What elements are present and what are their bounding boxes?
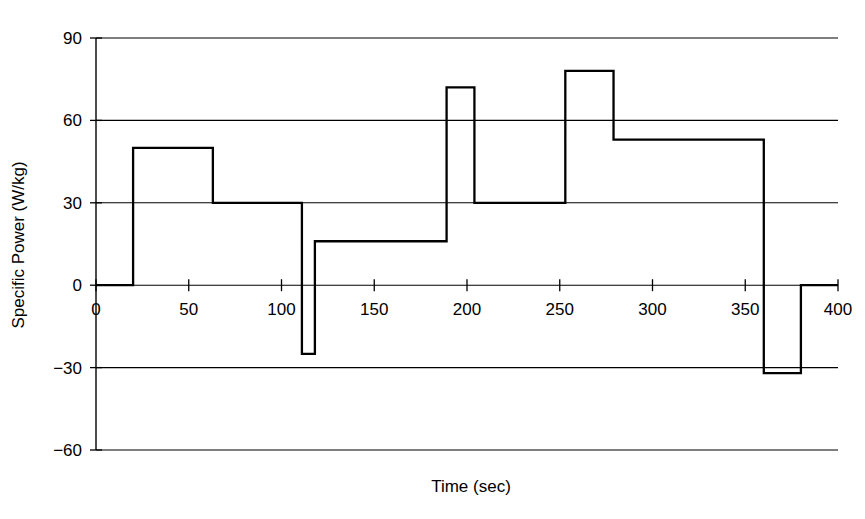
chart-background <box>0 0 865 519</box>
specific-power-step-chart: −60−300306090 050100150200250300350400 T… <box>0 0 865 519</box>
chart-figure: −60−300306090 050100150200250300350400 T… <box>0 0 865 519</box>
y-tick-label--60: −60 <box>53 441 82 460</box>
x-tick-label-350: 350 <box>731 300 759 319</box>
x-tick-label-200: 200 <box>453 300 481 319</box>
x-tick-label-250: 250 <box>546 300 574 319</box>
y-tick-label-90: 90 <box>63 29 82 48</box>
x-tick-label-300: 300 <box>638 300 666 319</box>
x-tick-label-50: 50 <box>179 300 198 319</box>
y-tick-label-60: 60 <box>63 111 82 130</box>
x-tick-label-400: 400 <box>824 300 852 319</box>
y-tick-label-0: 0 <box>73 276 82 295</box>
y-axis-title: Specific Power (W/kg) <box>9 161 28 328</box>
x-tick-label-0: 0 <box>91 300 100 319</box>
x-axis-title: Time (sec) <box>431 477 511 496</box>
y-tick-label--30: −30 <box>53 359 82 378</box>
x-tick-label-150: 150 <box>360 300 388 319</box>
y-tick-label-30: 30 <box>63 194 82 213</box>
x-tick-label-100: 100 <box>267 300 295 319</box>
